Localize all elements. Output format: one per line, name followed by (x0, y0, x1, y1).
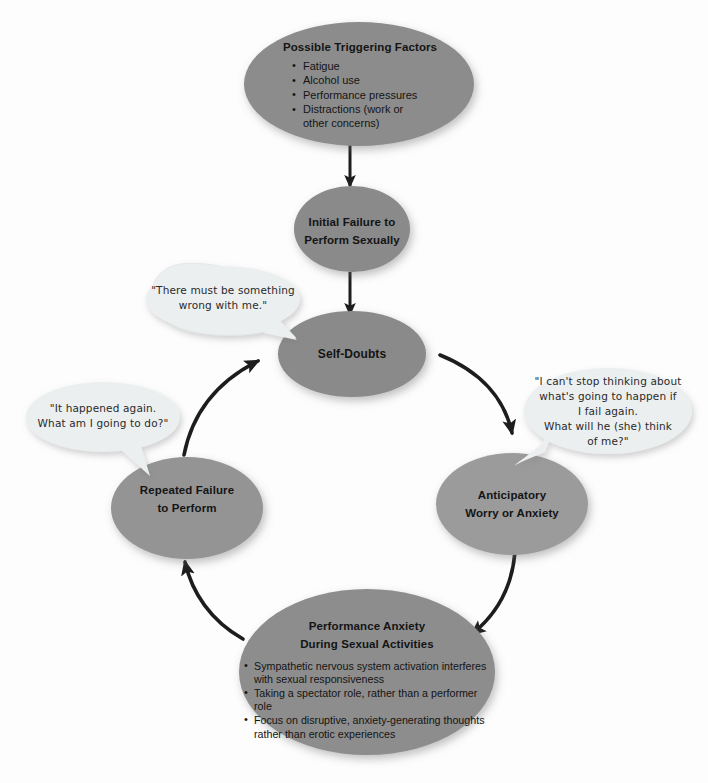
arrow-self-doubts-to-anticipatory (440, 355, 512, 433)
node-repeated-failure-shape[interactable] (111, 457, 263, 559)
diagram-canvas: Possible Triggering Factors Fatigue Alco… (0, 0, 708, 783)
node-anticipatory-worry-shape[interactable] (436, 453, 588, 555)
arrow-anticipatory-to-performance-anxiety (472, 552, 515, 634)
diagram-svg (0, 0, 708, 783)
node-triggering-factors-shape[interactable] (244, 22, 474, 146)
node-initial-failure-shape[interactable] (294, 186, 410, 272)
bubble-anticipatory-thought[interactable] (514, 368, 692, 466)
node-performance-anxiety-shape[interactable] (239, 589, 495, 755)
node-shape-layer (111, 22, 588, 755)
bubble-self-doubt-thought[interactable] (146, 263, 300, 340)
node-self-doubts-shape[interactable] (278, 311, 426, 397)
arrow-performance-anxiety-to-repeated-failure (185, 562, 243, 639)
arrow-repeated-failure-to-self-doubts (184, 361, 258, 455)
